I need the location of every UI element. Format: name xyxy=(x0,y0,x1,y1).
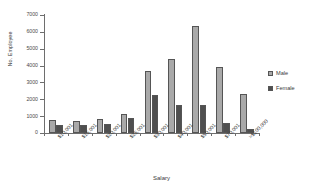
y-tick-label: 2000 xyxy=(26,97,38,102)
legend-item-male[interactable]: Male xyxy=(268,70,295,76)
legend: MaleFemale xyxy=(268,70,295,100)
bar-group xyxy=(187,15,211,133)
plot-area xyxy=(44,15,259,133)
x-tick-mark xyxy=(259,133,260,136)
y-tick-mark xyxy=(40,66,44,67)
legend-swatch-icon xyxy=(268,71,273,76)
bar-chart: No. Employee 010002000300040005000600070… xyxy=(0,0,323,192)
bar-female xyxy=(152,95,159,133)
y-tick-mark xyxy=(40,82,44,83)
y-tick-mark xyxy=(40,32,44,33)
bar-group xyxy=(116,15,140,133)
bar-group xyxy=(235,15,259,133)
y-tick-label: 3000 xyxy=(26,80,38,85)
bar-group xyxy=(68,15,92,133)
y-tick-label: 4000 xyxy=(26,63,38,68)
y-tick-mark xyxy=(40,99,44,100)
y-tick-mark xyxy=(40,116,44,117)
y-tick-label: 1000 xyxy=(26,114,38,119)
bar-group xyxy=(92,15,116,133)
bar-male xyxy=(240,94,247,133)
bar-male xyxy=(168,59,175,133)
legend-item-female[interactable]: Female xyxy=(268,85,295,91)
y-tick-label: 6000 xyxy=(26,29,38,34)
x-axis-tick-labels: $10,001$15,001$20,001$25,001$30,001$40,0… xyxy=(44,136,259,172)
legend-label: Female xyxy=(276,85,295,91)
bar-group xyxy=(211,15,235,133)
y-axis-tick-labels: 01000200030004000500060007000 xyxy=(0,0,38,192)
y-tick-mark xyxy=(40,133,44,134)
legend-label: Male xyxy=(276,70,288,76)
y-tick-mark xyxy=(40,15,44,16)
legend-swatch-icon xyxy=(268,86,273,91)
bar-male xyxy=(145,71,152,133)
bar-male xyxy=(49,120,56,133)
y-tick-mark xyxy=(40,49,44,50)
x-axis-title: Salary xyxy=(0,175,323,181)
bar-group xyxy=(44,15,68,133)
y-tick-label: 0 xyxy=(35,130,38,135)
y-tick-label: 5000 xyxy=(26,46,38,51)
bar-male xyxy=(121,114,128,133)
y-tick-label: 7000 xyxy=(26,12,38,17)
bar-male xyxy=(216,67,223,133)
bar-group xyxy=(140,15,164,133)
bar-group xyxy=(163,15,187,133)
bar-male xyxy=(192,26,199,133)
